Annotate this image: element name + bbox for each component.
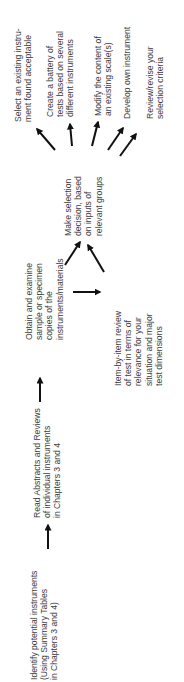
node-text-line: in Chapters 3 and 4 [52, 408, 62, 518]
outcome-create-battery: Create a battery of tests based on sever… [45, 31, 76, 117]
node-text-line: in Chapters 3 and 4) [49, 571, 59, 680]
node-text-line: on inputs of [83, 176, 93, 236]
node-text-line: Identify potential instruments [29, 571, 39, 680]
outcome-select-existing: Select an existing instru- ment found ac… [13, 28, 33, 122]
node-text-line: Create a battery of [45, 31, 55, 117]
node-selection-decision: Make selection decision, based on inputs… [63, 176, 104, 236]
node-text-line: Modify the content of [93, 36, 103, 116]
flowchart-canvas: Identify potential instruments (Using Su… [0, 0, 184, 682]
node-text-line: different instruments [65, 31, 75, 117]
arrow-item-review-to-decision [88, 245, 104, 272]
node-read-abstracts: Read Abstracts and Reviews of individual… [32, 408, 63, 518]
arrow-decision-to-review-criteria [120, 134, 136, 156]
node-text-line: Item-by-item review [113, 311, 123, 386]
node-text-line: copies of the [44, 258, 54, 340]
node-item-by-item-review: Item-by-item review of test in terms of … [113, 311, 164, 386]
node-identify-instruments: Identify potential instruments (Using Su… [29, 571, 60, 680]
node-obtain-copies: Obtain and examine sample or specimen co… [24, 258, 65, 340]
node-text-line: situation and major [144, 311, 154, 386]
node-text-line: Obtain and examine [24, 258, 34, 340]
arrow-decision-to-create-battery [70, 124, 72, 146]
node-text-line: Develop own instrument [122, 27, 132, 119]
outcome-modify-content: Modify the content of an existing scale(… [93, 36, 113, 116]
node-text-line: test dimensions [154, 311, 164, 386]
outcome-develop-own: Develop own instrument [122, 27, 132, 119]
arrow-obtain-to-decision [65, 242, 80, 265]
node-text-line: of individual instruments [42, 408, 52, 518]
outcome-review-criteria: Review/revise your selection criteria [145, 46, 165, 119]
node-text-line: relevance for your [133, 311, 143, 386]
node-text-line: of test in terms of [123, 311, 133, 386]
node-text-line: Read Abstracts and Reviews [32, 408, 42, 518]
arrow-decision-to-modify-content [92, 122, 98, 146]
node-text-line: relevant groups [94, 176, 104, 236]
node-text-line: instruments/materials [55, 258, 65, 340]
node-text-line: Select an existing instru- [13, 28, 23, 122]
node-text-line: tests based on several [55, 31, 65, 117]
node-text-line: sample or specimen [34, 258, 44, 340]
node-text-line: Review/revise your [145, 46, 155, 119]
node-text-line: an existing scale(s) [103, 36, 113, 116]
node-text-line: Make selection [63, 176, 73, 236]
node-text-line: ment found acceptable [23, 28, 33, 122]
node-text-line: selection criteria [155, 46, 165, 119]
arrow-decision-to-select-existing [37, 129, 55, 150]
node-text-line: (Using Summary Tables [39, 571, 49, 680]
node-text-line: decision, based [73, 176, 83, 236]
arrow-decision-to-develop-own [108, 128, 123, 150]
